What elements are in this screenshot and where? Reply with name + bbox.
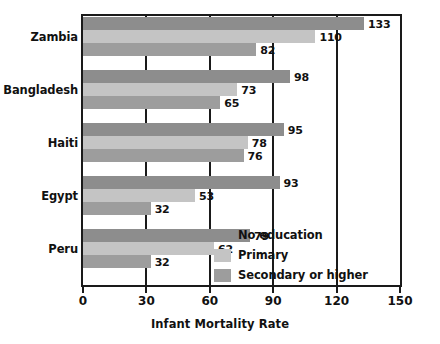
bar-row: 110 xyxy=(83,30,400,43)
bar-value-label: 32 xyxy=(155,202,170,215)
category-label-egypt: Egypt xyxy=(0,189,78,203)
x-tick-label-30: 30 xyxy=(138,294,155,308)
bar-row: 32 xyxy=(83,202,400,215)
bar-group: 935332 xyxy=(83,176,400,215)
bar-group: 987365 xyxy=(83,70,400,109)
bar-value-label: 110 xyxy=(319,30,341,43)
x-tick-mark-0 xyxy=(82,287,84,293)
bar[interactable] xyxy=(83,43,256,56)
x-tick-label-150: 150 xyxy=(387,294,412,308)
bar[interactable] xyxy=(83,70,290,83)
x-tick-mark-150 xyxy=(399,287,401,293)
bar-row: 78 xyxy=(83,136,400,149)
bar[interactable] xyxy=(83,176,280,189)
bar-group: 957876 xyxy=(83,123,400,162)
bar[interactable] xyxy=(83,30,315,43)
bar-value-label: 32 xyxy=(155,255,170,268)
category-label-peru: Peru xyxy=(0,242,78,256)
bar[interactable] xyxy=(83,255,151,268)
x-axis-title: Infant Mortality Rate xyxy=(0,317,440,331)
x-tick-label-120: 120 xyxy=(324,294,349,308)
bar-value-label: 53 xyxy=(199,189,214,202)
bar-row: 93 xyxy=(83,176,400,189)
bar-value-label: 82 xyxy=(260,43,275,56)
bar[interactable] xyxy=(83,96,220,109)
bar-value-label: 78 xyxy=(252,136,267,149)
bar-row: 53 xyxy=(83,189,400,202)
bar[interactable] xyxy=(83,83,237,96)
bar-row: 76 xyxy=(83,149,400,162)
category-label-bangladesh: Bangladesh xyxy=(0,83,78,97)
bar[interactable] xyxy=(83,242,214,255)
x-tick-mark-60 xyxy=(209,287,211,293)
legend-item[interactable]: Primary xyxy=(214,246,368,264)
x-tick-label-0: 0 xyxy=(79,294,87,308)
legend-item[interactable]: No education xyxy=(214,226,368,244)
bar-value-label: 65 xyxy=(224,96,239,109)
category-label-haiti: Haiti xyxy=(0,136,78,150)
bar[interactable] xyxy=(83,136,248,149)
x-tick-label-90: 90 xyxy=(265,294,282,308)
legend-item[interactable]: Secondary or higher xyxy=(214,266,368,284)
legend-label: Primary xyxy=(238,248,288,262)
bar-row: 98 xyxy=(83,70,400,83)
bar-value-label: 73 xyxy=(241,83,256,96)
bar-value-label: 95 xyxy=(288,123,303,136)
bar[interactable] xyxy=(83,17,364,30)
x-tick-mark-120 xyxy=(336,287,338,293)
bar-value-label: 76 xyxy=(248,149,263,162)
infant-mortality-bar-chart: 13311082987365957876935332796232 ZambiaB… xyxy=(0,0,440,344)
category-label-zambia: Zambia xyxy=(0,30,78,44)
legend-swatch-icon xyxy=(214,229,231,242)
legend-label: Secondary or higher xyxy=(238,268,368,282)
bar-group: 13311082 xyxy=(83,17,400,56)
bar-value-label: 133 xyxy=(368,17,390,30)
x-tick-mark-90 xyxy=(272,287,274,293)
bar-value-label: 93 xyxy=(284,176,299,189)
x-tick-label-60: 60 xyxy=(201,294,218,308)
bar-row: 65 xyxy=(83,96,400,109)
bar-value-label: 98 xyxy=(294,70,309,83)
bar[interactable] xyxy=(83,202,151,215)
bar[interactable] xyxy=(83,189,195,202)
bar-row: 95 xyxy=(83,123,400,136)
x-tick-mark-30 xyxy=(145,287,147,293)
legend-label: No education xyxy=(238,228,323,242)
bar-row: 73 xyxy=(83,83,400,96)
legend-swatch-icon xyxy=(214,249,231,262)
legend-swatch-icon xyxy=(214,269,231,282)
bar-row: 82 xyxy=(83,43,400,56)
bar[interactable] xyxy=(83,123,284,136)
legend: No educationPrimarySecondary or higher xyxy=(214,226,368,286)
bar-row: 133 xyxy=(83,17,400,30)
bar[interactable] xyxy=(83,149,244,162)
